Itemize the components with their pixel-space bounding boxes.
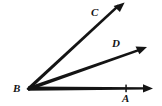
- point-label-d: D: [112, 38, 120, 49]
- vertex-b-point: [27, 87, 30, 90]
- geometry-canvas: [0, 0, 162, 106]
- point-label-c: C: [91, 7, 98, 18]
- angle-diagram-figure: B A D C: [0, 0, 162, 106]
- point-label-b: B: [13, 83, 20, 94]
- point-label-a: A: [122, 93, 129, 104]
